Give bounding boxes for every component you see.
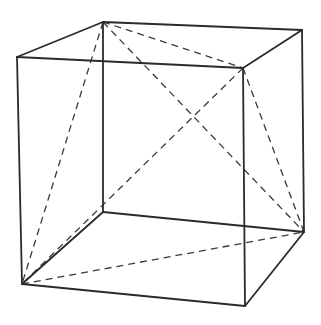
cube-edge-bbr-bbl: [103, 212, 304, 232]
cube-edge-bfl-bfr: [22, 284, 245, 306]
cube-edge-tfr-tbr: [243, 30, 302, 68]
cube-edge-tfl-tfr: [17, 57, 243, 68]
cube-diagram: [0, 0, 321, 325]
cube-edge-tbr-tbl: [103, 22, 302, 30]
dashed-diagonal-tbl-tfr: [103, 22, 243, 68]
tetrahedron-diagonals: [22, 22, 304, 284]
dashed-diagonal-bfl-bbr: [22, 232, 304, 284]
cube-edge-bbl-bfl: [22, 212, 103, 284]
cube-edges: [17, 22, 304, 306]
cube-edge-tbr-bbr: [302, 30, 304, 232]
cube-edge-bfr-bbr: [245, 232, 304, 306]
cube-edge-tfl-bfl: [17, 57, 22, 284]
cube-edge-tbl-tfl: [17, 22, 103, 57]
cube-edge-tfr-bfr: [243, 68, 245, 306]
dashed-diagonal-tfr-bbr: [243, 68, 304, 232]
dashed-diagonal-tbl-bbr: [103, 22, 304, 232]
